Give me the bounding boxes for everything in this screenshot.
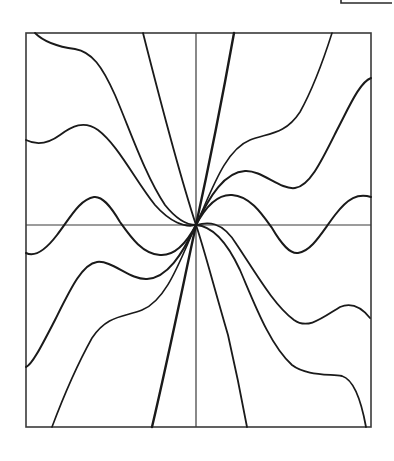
- curve-outer-lower-right: [196, 225, 366, 427]
- cropped-frame-corner: [341, 0, 392, 3]
- solution-curves-diagram: [0, 0, 394, 461]
- curve-outer-upper-left: [35, 33, 196, 225]
- curve-oscillating-right: [196, 195, 371, 253]
- curve-family: [26, 33, 371, 427]
- curve-shallow-right: [196, 223, 370, 323]
- curve-oscillating-left: [26, 197, 196, 255]
